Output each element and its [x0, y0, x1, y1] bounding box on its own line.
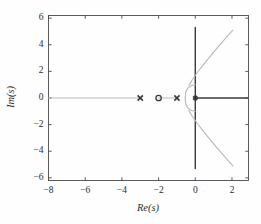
y-axis-title: Im(s): [6, 86, 17, 108]
pole-marker: [193, 96, 197, 100]
y-tick-label: −4: [33, 146, 43, 156]
locus-branches: [49, 27, 248, 168]
x-tick-label: 2: [230, 186, 235, 196]
y-tick-label: 4: [39, 40, 44, 50]
y-tick-label: −6: [33, 173, 43, 183]
x-tick-label: 0: [193, 186, 198, 196]
y-tick-label: −2: [33, 120, 43, 130]
x-tick-label: −4: [117, 186, 127, 196]
y-tick-label: 6: [39, 13, 44, 23]
x-tick-label: −6: [80, 186, 90, 196]
x-tick-label: −8: [43, 186, 53, 196]
root-locus-figure: −8−6−4−202 −6−4−20246 Re(s) Im(s): [0, 0, 261, 224]
x-axis-title: Re(s): [137, 203, 159, 214]
y-tick-label: 0: [39, 93, 44, 103]
plot-canvas: [0, 0, 261, 224]
x-tick-label: −2: [154, 186, 164, 196]
y-tick-label: 2: [39, 67, 44, 77]
